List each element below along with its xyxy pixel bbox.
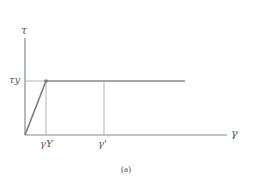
gamma-prime-label: γ' bbox=[98, 139, 107, 149]
gamma-y-label: γY bbox=[40, 139, 53, 149]
elastic-segment bbox=[25, 81, 46, 135]
yield-point bbox=[44, 79, 48, 83]
stress-strain-diagram bbox=[0, 0, 259, 188]
gamma-axis-label: γ bbox=[231, 128, 238, 139]
tau-y-label: τy bbox=[9, 75, 20, 85]
tau-axis-label: τ bbox=[21, 25, 27, 36]
figure-caption: (a) bbox=[121, 165, 131, 174]
